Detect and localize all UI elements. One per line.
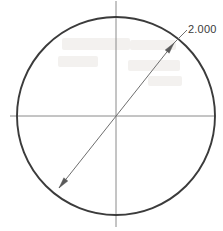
dimension-value-label: 2.000 (188, 23, 217, 35)
arrowhead-lower-left-icon (59, 178, 68, 188)
drawing-canvas: 2.000 (0, 0, 223, 231)
drawing-svg: 2.000 (0, 0, 223, 231)
background-ghost-artifacts (58, 38, 182, 86)
